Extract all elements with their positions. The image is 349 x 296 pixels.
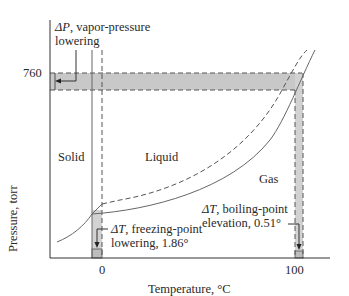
region-solid-label: Solid (58, 150, 84, 164)
region-liquid-label: Liquid (145, 150, 178, 164)
vapor-pressure-annotation: ΔP, vapor-pressure lowering (55, 20, 150, 48)
x-axis-label: Temperature, °C (148, 282, 231, 296)
freezing-point-annotation: ΔT, freezing-point lowering, 1.86° (111, 222, 202, 250)
y-axis-label: Pressure, torr (6, 185, 21, 252)
x-tick-100: 100 (285, 263, 304, 277)
y-tick-760: 760 (23, 66, 42, 80)
vapor-pressure-band (50, 73, 302, 90)
boiling-point-marker (295, 251, 303, 258)
freezing-point-marker (92, 249, 102, 258)
sublimation-curve (57, 214, 92, 242)
delta-p-symbol: ΔP (55, 20, 70, 34)
x-tick-0: 0 (99, 263, 105, 277)
region-gas-label: Gas (259, 172, 278, 186)
boiling-point-annotation: ΔT, boiling-point elevation, 0.51° (202, 202, 288, 230)
